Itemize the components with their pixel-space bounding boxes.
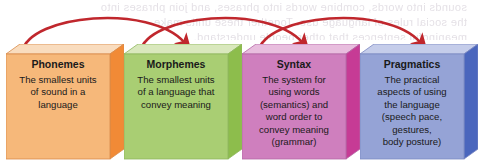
box-content-morphemes: Morphemes The smallest units of a langua… — [124, 54, 228, 159]
box-content-phonemes: Phonemes The smallest units of sound in … — [6, 54, 110, 159]
bleed-line-1: the social rules of language use. Togeth… — [0, 15, 483, 30]
language-components-diagram: sounds into words, combine words into ph… — [0, 0, 483, 167]
box-morphemes[interactable]: Morphemes The smallest units of a langua… — [124, 44, 242, 162]
box-body-syntax: The system for using words (semantics) a… — [246, 74, 342, 148]
box-title-syntax: Syntax — [246, 57, 342, 71]
box-content-pragmatics: Pragmatics The practical aspects of usin… — [360, 54, 464, 159]
box-body-pragmatics: The practical aspects of using the langu… — [364, 74, 460, 148]
concept-boxes: Phonemes The smallest units of sound in … — [0, 44, 483, 167]
box-body-morphemes: The smallest units of a language that co… — [128, 74, 224, 111]
box-syntax[interactable]: Syntax The system for using words (seman… — [242, 44, 360, 162]
bleed-through-text: sounds into words, combine words into ph… — [0, 0, 483, 40]
box-body-phonemes: The smallest units of sound in a languag… — [10, 74, 106, 111]
box-content-syntax: Syntax The system for using words (seman… — [242, 54, 346, 159]
box-title-morphemes: Morphemes — [128, 57, 224, 71]
bleed-line-0: sounds into words, combine words into ph… — [0, 0, 483, 15]
box-title-pragmatics: Pragmatics — [364, 57, 460, 71]
bleed-line-2: meaningful sentences that other people u… — [0, 30, 483, 40]
box-title-phonemes: Phonemes — [10, 57, 106, 71]
box-phonemes[interactable]: Phonemes The smallest units of sound in … — [6, 44, 124, 162]
box-pragmatics[interactable]: Pragmatics The practical aspects of usin… — [360, 44, 478, 162]
